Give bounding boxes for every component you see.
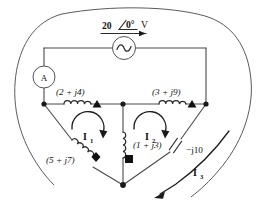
- square-marker-z4-icon: [125, 155, 133, 163]
- mesh-current-i1-subscript: 1: [90, 137, 93, 144]
- mesh-current-i2-label: I: [145, 131, 149, 142]
- mesh-current-i1-arrowhead-icon: [99, 130, 107, 139]
- circuit-diagram: 20 0° V A (2 + j4) (3 + j9): [0, 0, 258, 208]
- node-left: [41, 101, 46, 106]
- impedance-z5: −j10: [169, 138, 203, 155]
- impedance-z2-label: (3 + j9): [152, 87, 181, 97]
- source-magnitude: 20: [102, 20, 112, 31]
- wire-z3-upper: [44, 104, 72, 140]
- inductor-coil-z4-icon: [123, 132, 126, 158]
- source-arrow-head-icon: [139, 31, 146, 36]
- wire-z3-lower: [93, 167, 123, 185]
- mesh-current-i2-arrowhead-icon: [161, 130, 169, 139]
- ammeter: A: [33, 66, 55, 88]
- inductor-coil-z2-icon: [159, 101, 186, 104]
- mesh-current-i1: I 1: [72, 112, 107, 144]
- supermesh-current-i3-arc: [160, 131, 229, 194]
- wire-z5-upper: [181, 104, 206, 139]
- mesh-current-i1-label: I: [83, 131, 87, 142]
- angle-slash-icon: [119, 21, 126, 30]
- impedance-z1-label: (2 + j4): [56, 87, 85, 97]
- supermesh-boundary: [15, 8, 252, 197]
- mesh-current-i2-arc: [134, 112, 166, 133]
- impedance-z2: (3 + j9): [152, 87, 197, 108]
- diamond-marker-z3-icon: [92, 152, 101, 162]
- inductor-coil-z1-icon: [64, 101, 91, 104]
- node-bottom: [120, 182, 126, 188]
- supermesh-current-i3: I 3: [154, 131, 229, 199]
- supermesh-current-i3-label: I: [193, 167, 197, 178]
- ammeter-label: A: [41, 73, 48, 83]
- supermesh-current-i3-subscript: 3: [200, 173, 204, 180]
- source-angle: 0°: [126, 19, 135, 30]
- ac-source-sine-icon: [113, 37, 136, 60]
- supermesh-current-i3-arrowhead-icon: [154, 192, 165, 199]
- source-voltage-label: 20 0° V: [101, 19, 148, 37]
- impedance-z3-label: (5 + j7): [46, 155, 75, 165]
- impedance-z5-label: −j10: [186, 145, 203, 155]
- mesh-current-i1-arc: [72, 112, 104, 133]
- impedance-z4: (1 + j3): [123, 132, 162, 163]
- node-middle: [120, 101, 125, 106]
- node-right: [203, 101, 208, 106]
- source-unit: V: [141, 19, 148, 30]
